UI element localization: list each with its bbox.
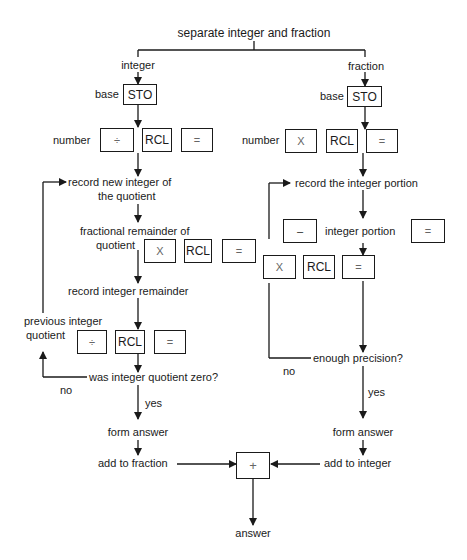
integer-portion-label: integer portion <box>325 225 395 238</box>
enough-precision-decision: enough precision? <box>313 352 403 365</box>
fraction-equals-key-2: = <box>411 219 445 243</box>
fraction-no-label: no <box>283 365 295 378</box>
integer-base-label: base <box>95 88 119 101</box>
fractional-remainder: fractional remainder of <box>80 225 189 238</box>
previous-divide-key: ÷ <box>77 330 107 354</box>
fraction-rcl-key: RCL <box>326 129 358 153</box>
integer-rcl-key: RCL <box>142 128 172 152</box>
fraction-sto-key: STO <box>347 86 382 107</box>
mult-equals-key: = <box>342 255 375 279</box>
mult-rcl-key: RCL <box>303 255 335 279</box>
previous-integer: previous integer <box>24 315 102 328</box>
remainder-equals-key: = <box>222 239 256 263</box>
answer-label: answer <box>235 527 270 540</box>
fraction-multiply-key: X <box>285 129 317 153</box>
minus-key: – <box>283 219 317 243</box>
fraction-number-label: number <box>242 134 279 147</box>
fraction-form-answer: form answer <box>333 426 394 439</box>
title-separate: separate integer and fraction <box>178 27 331 40</box>
previous-equals-key: = <box>154 330 186 354</box>
integer-divide-key: ÷ <box>100 128 134 152</box>
integer-zero-decision: was integer quotient zero? <box>89 371 218 384</box>
add-to-fraction: add to fraction <box>98 457 168 470</box>
integer-sto-key: STO <box>123 84 157 105</box>
integer-equals-key: = <box>181 128 213 152</box>
record-new-integer: record new integer of <box>68 176 171 189</box>
integer-label: integer <box>121 59 155 72</box>
record-integer-remainder: record integer remainder <box>68 285 188 298</box>
fractional-remainder-line2: quotient <box>96 239 135 252</box>
flow-lines <box>0 0 467 560</box>
record-integer-portion: record the integer portion <box>295 177 418 190</box>
previous-integer-line2: quotient <box>26 329 65 342</box>
integer-no-label: no <box>60 384 72 397</box>
remainder-multiply-key: X <box>144 239 176 263</box>
record-new-integer-line2: the quotient <box>98 190 156 203</box>
fraction-label: fraction <box>348 60 384 73</box>
fraction-equals-key: = <box>366 129 398 153</box>
fraction-base-label: base <box>320 90 344 103</box>
remainder-rcl-key: RCL <box>184 239 212 263</box>
previous-rcl-key: RCL <box>115 330 145 354</box>
integer-yes-label: yes <box>145 397 162 410</box>
integer-form-answer: form answer <box>108 426 169 439</box>
fraction-yes-label: yes <box>368 386 385 399</box>
add-to-integer: add to integer <box>324 457 391 470</box>
mult-multiply-key: X <box>263 255 296 279</box>
plus-key: + <box>236 452 270 479</box>
integer-number-label: number <box>53 134 90 147</box>
